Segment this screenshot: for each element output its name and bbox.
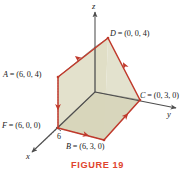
vertex-label-C: C = (0, 3, 0) <box>140 92 179 100</box>
figure-caption: FIGURE 19 <box>0 160 195 170</box>
vertex-dot-D <box>107 37 110 40</box>
vertex-label-B: B = (6, 3, 0) <box>66 143 104 151</box>
vertex-label-A: A = (6, 0, 4) <box>3 71 41 79</box>
vertex-dot-F <box>57 127 60 130</box>
figure-container: z y x 6 D = (0, 0, 4) A = (6, 0, 4) C = … <box>0 0 195 177</box>
x-tick-label-6: 6 <box>57 133 61 141</box>
axis-label-y: y <box>167 110 171 119</box>
surface-fill <box>58 38 140 140</box>
vertex-label-D: D = (0, 0, 4) <box>110 30 149 38</box>
vertex-dot-A <box>57 76 60 79</box>
vertex-dot-B <box>103 139 106 142</box>
axis-label-z: z <box>92 2 95 11</box>
vertex-label-F: F = (6, 0, 0) <box>2 122 40 130</box>
